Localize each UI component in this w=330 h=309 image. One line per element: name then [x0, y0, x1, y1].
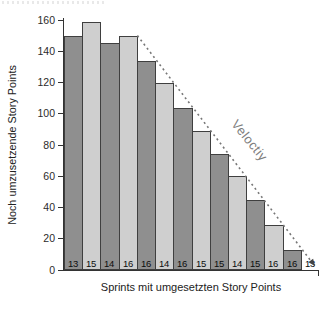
burndown-chart: Noch umzusetzende Story Points 020406080…	[0, 0, 330, 309]
velocity-trend-arrow	[0, 0, 330, 309]
x-axis-title: Sprints mit umgesetzten Story Points	[63, 281, 319, 293]
